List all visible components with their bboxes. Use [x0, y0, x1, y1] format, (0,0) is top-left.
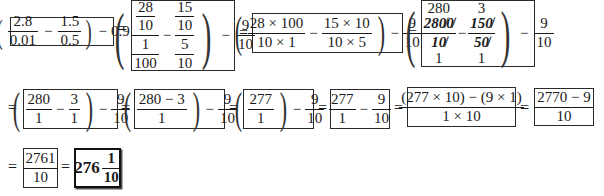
- complex-fraction: 2810 1100: [132, 0, 159, 72]
- cancelled-numerator: 280̸0̸: [422, 16, 456, 32]
- fraction: 910: [535, 16, 554, 51]
- step-10-box: 2770 − 910: [534, 88, 594, 126]
- fraction: 276110: [24, 151, 58, 186]
- fraction: 910: [372, 92, 391, 127]
- left-paren: (: [13, 87, 20, 131]
- left-paren: (: [235, 11, 242, 55]
- cancelled-denominator: 50̸: [472, 35, 491, 51]
- step-9-box: (277 × 10) − (9 × 1)1 × 10: [407, 87, 516, 127]
- fraction: 15 × 1010 × 5: [322, 16, 372, 51]
- step-5-box: ( 2801 − 31 ) − 910: [23, 89, 118, 129]
- right-paren: ): [86, 15, 92, 49]
- cancelled-numerator: 150̸: [468, 16, 495, 32]
- fraction: 2770 − 910: [535, 90, 592, 125]
- fraction: (277 × 10) − (9 × 1)1 × 10: [399, 90, 523, 125]
- equals-sign: =: [8, 158, 17, 176]
- complex-fraction: 1510 510: [175, 0, 194, 72]
- fraction: 2771: [248, 92, 275, 127]
- cancelled-fraction: 280 280̸0̸10̸ 1: [422, 1, 456, 67]
- fraction: 2801: [26, 92, 53, 127]
- fraction: 31: [69, 92, 81, 127]
- fraction: 2771: [329, 92, 356, 127]
- left-paren: (: [124, 87, 131, 131]
- equals-sign: =: [318, 99, 327, 117]
- right-paren: ): [501, 2, 511, 66]
- left-paren: (: [235, 87, 242, 131]
- step-6-box: ( 280 − 31 ) − 910: [134, 89, 225, 129]
- right-paren: ): [377, 11, 384, 55]
- equals-sign: =: [61, 158, 70, 176]
- left-paren: (: [406, 2, 416, 66]
- step-4-box: ( 280 280̸0̸10̸ 1 − 3 150̸50̸ 1 ) − 910: [421, 0, 535, 67]
- fraction: 280 − 31: [137, 92, 187, 127]
- step-1-box: ( 2.80.01 − 1.50.5 ) − 0.9: [10, 17, 114, 46]
- step-11-box: 276110: [23, 148, 58, 188]
- fraction: 28 × 10010 × 1: [248, 16, 305, 51]
- answer-whole: 276: [74, 158, 100, 178]
- right-paren: ): [192, 87, 199, 131]
- cancelled-fraction: 3 150̸50̸ 1: [468, 1, 495, 67]
- equals-sign: =: [520, 99, 529, 117]
- left-paren: (: [0, 15, 3, 49]
- final-answer-box: 276 110: [74, 148, 121, 188]
- step-2-box: ( 2810 1100 − 1510 510 ) − 910: [131, 0, 235, 71]
- answer-fraction: 110: [102, 151, 121, 186]
- right-paren: ): [202, 4, 212, 68]
- right-paren: ): [280, 87, 287, 131]
- step-3-box: ( 28 × 10010 × 1 − 15 × 1010 × 5 ) − 910: [252, 13, 403, 53]
- fraction: 1.50.5: [58, 14, 81, 49]
- cancelled-denominator: 10̸: [429, 35, 448, 51]
- fraction: 2.80.01: [8, 14, 38, 49]
- step-7-box: ( 2771 ) − 910: [243, 89, 314, 129]
- left-paren: (: [115, 4, 125, 68]
- step-8-box: 2771 − 910: [330, 89, 390, 129]
- right-paren: ): [86, 87, 93, 131]
